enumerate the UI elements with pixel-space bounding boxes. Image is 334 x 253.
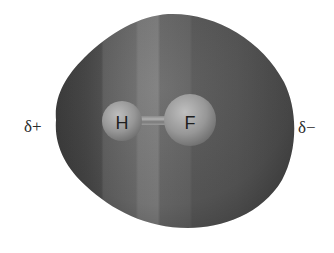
- partial-negative-label: δ−: [298, 119, 316, 136]
- atom-label-hydrogen: H: [116, 114, 129, 132]
- partial-positive-label: δ+: [24, 118, 42, 135]
- atom-label-fluorine: F: [185, 114, 196, 132]
- hf-potential-map-figure: H F δ+ δ−: [0, 0, 334, 253]
- electron-density-surface: [0, 0, 334, 253]
